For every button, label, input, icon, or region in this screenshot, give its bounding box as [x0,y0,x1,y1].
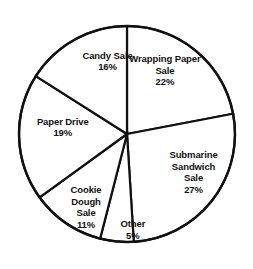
pie-slice-label-name: Other [120,218,145,230]
pie-slice-label-name: Sale [169,172,217,184]
pie-slice-label-value: 27% [169,184,217,196]
pie-slice-label-value: 19% [37,128,89,140]
pie-slice-label: CookieDoughSale11% [70,184,101,230]
pie-slice-label: Paper Drive19% [37,116,89,139]
pie-slice-label-value: 22% [129,76,200,88]
pie-slice-label-value: 11% [70,219,101,231]
pie-slice-label-name: Candy Sale [82,50,132,62]
pie-slice-label: Wrapping PaperSale22% [129,53,200,88]
pie-slice-label: Other5% [120,218,145,241]
pie-slice-label-name: Paper Drive [37,116,89,128]
pie-slice-label-name: Sale [129,64,200,76]
pie-slice-label-value: 16% [82,62,132,74]
pie-slice-label: Candy Sale16% [82,50,132,73]
pie-slice-label-name: Sale [70,207,101,219]
pie-slice-label-name: Submarine [169,149,217,161]
pie-slice-label-name: Sandwich [169,161,217,173]
pie-slice-label: SubmarineSandwichSale27% [169,149,217,195]
pie-slice-label-name: Cookie [70,184,101,196]
pie-slice-label-name: Dough [70,196,101,208]
pie-chart: Wrapping PaperSale22%SubmarineSandwichSa… [0,0,253,269]
pie-slice-label-value: 5% [120,230,145,242]
pie-slice-label-name: Wrapping Paper [129,53,200,65]
